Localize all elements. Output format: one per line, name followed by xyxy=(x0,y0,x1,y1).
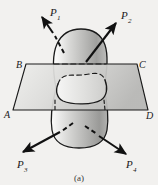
force-P1-subscript: 1 xyxy=(57,14,61,22)
force-P1-letter: P xyxy=(49,6,57,18)
corner-label-D: D xyxy=(145,110,154,121)
figure-illustration: P 1 P 2 P 3 P 4 B C D xyxy=(0,0,158,185)
force-P3-letter: P xyxy=(16,158,24,170)
force-P1-arrow xyxy=(42,17,53,33)
corner-label-A: A xyxy=(3,109,11,120)
figure-caption: (a) xyxy=(74,173,84,183)
force-P2-letter: P xyxy=(120,9,128,21)
force-P4-subscript: 4 xyxy=(133,166,137,174)
force-P3-subscript: 3 xyxy=(23,166,28,174)
force-vector-P1: P 1 xyxy=(42,6,64,53)
force-P4-arrow xyxy=(99,136,126,154)
section-cut-surface xyxy=(57,73,107,104)
corner-label-B: B xyxy=(16,59,22,70)
force-P2-subscript: 2 xyxy=(128,17,132,25)
force-P4-letter: P xyxy=(125,158,133,170)
force-P3-arrow xyxy=(23,132,60,152)
cut-face-fill xyxy=(57,73,107,104)
corner-label-C: C xyxy=(139,59,146,70)
figure-container: P 1 P 2 P 3 P 4 B C D xyxy=(0,0,158,185)
